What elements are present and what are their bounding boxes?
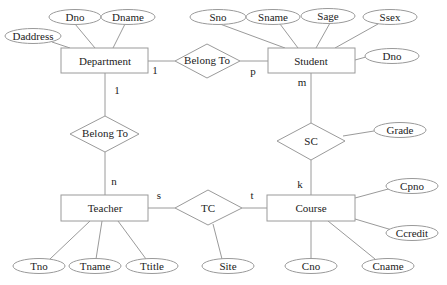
attribute-ssex[interactable]: Ssex [363, 10, 417, 25]
attribute-grade[interactable]: Grade [374, 123, 426, 138]
svg-text:Dno: Dno [66, 11, 85, 23]
svg-text:Ttitle: Ttitle [140, 260, 164, 272]
svg-text:Cno: Cno [302, 260, 321, 272]
entity-student[interactable]: Student [268, 48, 355, 73]
entity-course[interactable]: Course [267, 195, 355, 221]
attribute-sno[interactable]: Sno [190, 10, 246, 25]
attribute-site[interactable]: Site [202, 259, 254, 274]
svg-text:Dname: Dname [112, 11, 144, 23]
svg-text:Tno: Tno [30, 260, 48, 272]
attribute-sname[interactable]: Sname [246, 10, 300, 25]
relationship-belong-to-teacher[interactable]: Belong To [70, 116, 139, 152]
svg-text:Tname: Tname [80, 260, 111, 272]
attribute-daddress[interactable]: Daddress [5, 29, 61, 44]
attribute-dname[interactable]: Dname [101, 10, 155, 25]
attribute-dno-department[interactable]: Dno [49, 10, 101, 25]
entity-label: Student [294, 55, 328, 67]
entity-teacher[interactable]: Teacher [61, 195, 148, 221]
cardinality-label: k [297, 178, 303, 190]
entity-label: Course [295, 202, 326, 214]
relationship-label: Belong To [184, 54, 230, 66]
svg-text:Ccredit: Ccredit [396, 227, 428, 239]
cardinality-label: 1 [114, 84, 120, 96]
cardinality-label: t [250, 189, 253, 201]
entity-label: Teacher [88, 202, 123, 214]
cardinality-label: s [157, 189, 161, 201]
attribute-ttitle[interactable]: Ttitle [126, 259, 178, 274]
relationship-label: TC [201, 202, 215, 214]
attribute-tname[interactable]: Tname [69, 259, 121, 274]
attribute-cno[interactable]: Cno [285, 259, 337, 274]
relationship-tc[interactable]: TC [175, 190, 242, 225]
svg-text:Sno: Sno [209, 11, 227, 23]
svg-text:Ssex: Ssex [380, 11, 401, 23]
svg-text:Cpno: Cpno [400, 180, 424, 192]
svg-text:Sage: Sage [317, 10, 339, 22]
attribute-dno-student[interactable]: Dno [365, 49, 419, 64]
cardinality-label: p [250, 65, 256, 77]
attribute-sage[interactable]: Sage [301, 9, 355, 24]
cardinality-label: 1 [152, 64, 158, 76]
attribute-cpno[interactable]: Cpno [386, 179, 438, 194]
entity-label: Department [79, 55, 131, 67]
attribute-ccredit[interactable]: Ccredit [386, 226, 438, 241]
relationship-label: SC [304, 135, 317, 147]
er-diagram: Department Student Teacher Course Belong… [0, 0, 447, 285]
cardinality-label: n [111, 175, 117, 187]
attribute-tno[interactable]: Tno [13, 259, 65, 274]
svg-text:Sname: Sname [258, 11, 288, 23]
svg-text:Cname: Cname [372, 260, 403, 272]
entity-department[interactable]: Department [61, 48, 148, 73]
svg-text:Dno: Dno [383, 50, 402, 62]
svg-text:Site: Site [219, 260, 236, 272]
relationship-label: Belong To [82, 127, 128, 139]
cardinality-label: m [298, 76, 307, 88]
relationship-sc[interactable]: SC [277, 123, 345, 160]
svg-text:Grade: Grade [387, 124, 414, 136]
relationship-belong-to-student[interactable]: Belong To [175, 44, 240, 78]
svg-text:Daddress: Daddress [13, 30, 54, 42]
attribute-cname[interactable]: Cname [362, 259, 414, 274]
